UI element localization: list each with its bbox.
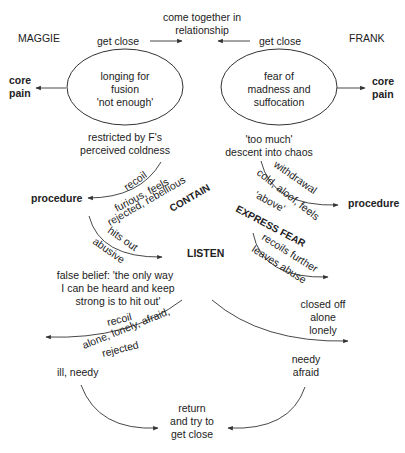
frank-ellipse-line-2: madness and xyxy=(247,83,310,95)
return-line-3: get close xyxy=(171,428,213,440)
too-much-line-1: 'too much' xyxy=(245,133,292,145)
restricted-line-2: perceived coldness xyxy=(80,144,170,156)
closed-off-line-3: lonely xyxy=(309,324,337,336)
frank-ellipse-line-1: fear of xyxy=(264,70,294,82)
frank-ellipse-line-3: suffocation xyxy=(254,96,305,108)
afraid-label: afraid xyxy=(293,366,319,378)
false-belief-line-1: false belief: 'the only way xyxy=(57,269,174,281)
return-arrow-left xyxy=(81,385,158,428)
maggie-get-close: get close xyxy=(97,35,139,47)
maggie-label: MAGGIE xyxy=(18,32,60,44)
return-arrow-right xyxy=(228,387,305,428)
false-belief-line-3: strong is to hit out' xyxy=(76,295,161,307)
maggie-ellipse-line-3: 'not enough' xyxy=(97,96,154,108)
maggie-frank-cycle-diagram: come together in relationship MAGGIE FRA… xyxy=(0,0,405,453)
closed-off-line-2: alone xyxy=(310,311,336,323)
maggie-core-pain-1: core xyxy=(9,74,31,86)
maggie-ellipse-line-2: fusion xyxy=(111,83,139,95)
frank-core-pain-1: core xyxy=(372,75,394,87)
frank-procedure: procedure xyxy=(348,197,400,209)
return-line-1: return xyxy=(178,402,206,414)
too-much-line-2: descent into chaos xyxy=(225,146,313,158)
false-belief-line-2: I can be heard and keep xyxy=(61,282,174,294)
needy-label: needy xyxy=(292,353,321,365)
restricted-line-1: restricted by F's xyxy=(88,131,162,143)
return-line-2: and try to xyxy=(170,415,214,427)
frank-core-pain-2: pain xyxy=(372,88,394,100)
maggie-ellipse-line-1: longing for xyxy=(100,70,150,82)
title-line-1: come together in xyxy=(163,11,241,23)
ill-needy-label: ill, needy xyxy=(57,366,99,378)
maggie-core-pain-2: pain xyxy=(9,87,31,99)
closed-off-line-1: closed off xyxy=(301,298,346,310)
maggie-procedure: procedure xyxy=(31,192,83,204)
listen-label: LISTEN xyxy=(187,247,224,259)
frank-label: FRANK xyxy=(349,32,385,44)
frank-get-close: get close xyxy=(259,35,301,47)
title-line-2: relationship xyxy=(175,24,229,36)
